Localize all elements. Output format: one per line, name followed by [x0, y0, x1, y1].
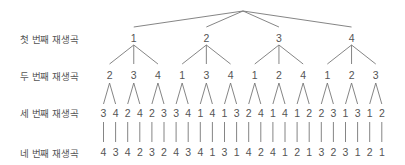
tree-node-row4: 2: [294, 146, 300, 158]
tree-edge: [225, 83, 231, 104]
tree-node-row4: 2: [367, 146, 373, 158]
tree-edge: [255, 83, 261, 104]
tree-node-row3: 4: [137, 107, 143, 119]
tree-node-row4: 4: [125, 146, 131, 158]
tree-node-row3: 2: [306, 107, 312, 119]
tree-edge: [352, 45, 376, 64]
tree-edge: [206, 45, 230, 64]
tree-edge: [134, 11, 243, 27]
tree-edge: [346, 83, 352, 104]
tree-edge: [273, 83, 279, 104]
row-label-first-song: 첫 번째 재생곡: [20, 32, 78, 46]
tree-edge: [200, 83, 206, 104]
tree-node-row4: 4: [197, 146, 203, 158]
tree-node-row3: 4: [258, 107, 264, 119]
tree-edge: [327, 83, 333, 104]
tree-node-row4: 1: [306, 146, 312, 158]
tree-node-row3: 4: [185, 107, 191, 119]
tree-node-row4: 2: [258, 146, 264, 158]
tree-edge: [255, 45, 279, 64]
tree-node-row1: 2: [203, 32, 209, 44]
tree-node-row3: 1: [367, 107, 373, 119]
tree-edge: [297, 83, 303, 104]
tree-edge: [352, 83, 358, 104]
tree-node-row3: 3: [355, 107, 361, 119]
tree-node-row4: 2: [161, 146, 167, 158]
tree-edge: [110, 45, 134, 64]
row-label-fourth-song: 네 번째 재생곡: [20, 146, 78, 160]
tree-edge: [128, 83, 134, 104]
tree-node-row3: 2: [246, 107, 252, 119]
tree-node-row4: 1: [209, 146, 215, 158]
tree-node-row3: 2: [318, 107, 324, 119]
tree-node-row2: 4: [155, 69, 161, 81]
tree-node-row1: 3: [276, 32, 282, 44]
tree-edge: [370, 83, 376, 104]
tree-node-row3: 2: [149, 107, 155, 119]
tree-node-row2: 4: [300, 69, 306, 81]
tree-edge: [134, 45, 158, 64]
row-label-third-song: 세 번째 재생곡: [20, 106, 78, 120]
tree-node-row3: 3: [161, 107, 167, 119]
tree-node-row3: 4: [209, 107, 215, 119]
tree-edge: [110, 83, 116, 104]
tree-node-row4: 3: [222, 146, 228, 158]
tree-node-row2: 1: [252, 69, 258, 81]
tree-node-row3: 1: [222, 107, 228, 119]
tree-node-row3: 1: [270, 107, 276, 119]
tree-edge: [279, 45, 303, 64]
tree-node-row4: 2: [330, 146, 336, 158]
tree-node-row4: 3: [113, 146, 119, 158]
tree-edge: [327, 45, 351, 64]
tree-edge: [249, 83, 255, 104]
tree-edge: [243, 11, 352, 27]
tree-node-row3: 1: [294, 107, 300, 119]
tree-node-row3: 1: [197, 107, 203, 119]
tree-edge: [134, 83, 140, 104]
tree-edge: [231, 83, 237, 104]
tree-node-row3: 2: [379, 107, 385, 119]
tree-node-row4: 3: [185, 146, 191, 158]
tree-node-row4: 4: [101, 146, 107, 158]
tree-node-row4: 2: [137, 146, 143, 158]
tree-node-row3: 3: [330, 107, 336, 119]
tree-edge: [206, 83, 212, 104]
tree-node-row2: 4: [228, 69, 234, 81]
tree-edge: [376, 83, 382, 104]
tree-node-row4: 3: [318, 146, 324, 158]
tree-edge: [158, 83, 164, 104]
tree-node-row4: 1: [355, 146, 361, 158]
tree-edge: [152, 83, 158, 104]
tree-node-row4: 4: [270, 146, 276, 158]
tree-node-row3: 3: [173, 107, 179, 119]
tree-node-row4: 4: [246, 146, 252, 158]
row-label-second-song: 두 번째 재생곡: [20, 69, 78, 83]
tree-node-row4: 1: [282, 146, 288, 158]
tree-node-row2: 1: [179, 69, 185, 81]
tree-node-row2: 2: [107, 69, 113, 81]
tree-edge: [104, 83, 110, 104]
tree-edge: [182, 45, 206, 64]
tree-node-row3: 1: [343, 107, 349, 119]
tree-edge: [303, 83, 309, 104]
tree-node-row3: 4: [282, 107, 288, 119]
tree-node-row4: 1: [379, 146, 385, 158]
tree-edge: [279, 83, 285, 104]
tree-node-row3: 4: [113, 107, 119, 119]
tree-node-row3: 3: [101, 107, 107, 119]
tree-node-row2: 3: [373, 69, 379, 81]
tree-edge: [182, 83, 188, 104]
tree-edge: [176, 83, 182, 104]
tree-node-row4: 1: [234, 146, 240, 158]
tree-node-row1: 1: [131, 32, 137, 44]
tree-node-row3: 2: [125, 107, 131, 119]
tree-node-row4: 4: [173, 146, 179, 158]
tree-node-row4: 3: [149, 146, 155, 158]
tree-node-row1: 4: [349, 32, 355, 44]
tree-node-row2: 3: [203, 69, 209, 81]
tree-node-row2: 2: [349, 69, 355, 81]
tree-node-row3: 3: [234, 107, 240, 119]
tree-node-row4: 3: [343, 146, 349, 158]
tree-node-row2: 3: [131, 69, 137, 81]
tree-node-row2: 2: [276, 69, 282, 81]
